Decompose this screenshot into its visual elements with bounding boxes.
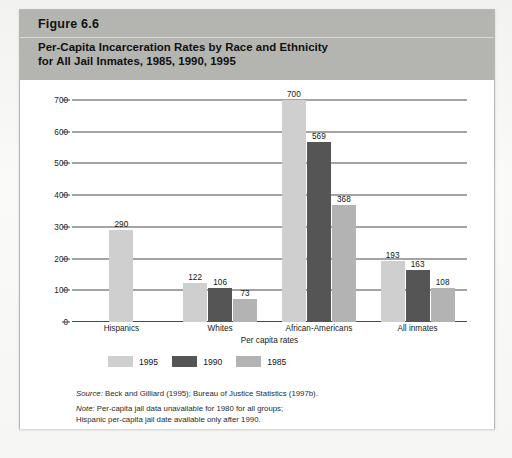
legend-swatch	[108, 356, 133, 367]
source-label: Source:	[76, 389, 103, 398]
y-axis-tick-mark	[62, 290, 70, 291]
bar[interactable]: 290	[109, 100, 133, 322]
bar-rect	[109, 230, 133, 322]
category-label: Hispanics	[72, 324, 171, 333]
bar-value-label: 193	[386, 251, 400, 260]
y-axis-tick-mark	[62, 258, 70, 259]
bar-group: 700569368	[270, 100, 369, 322]
bar-group: 290	[72, 100, 171, 322]
y-axis-tick-mark	[62, 195, 70, 196]
legend-label: 1985	[267, 357, 286, 367]
note-text: Per-capita jail data unavailable for 198…	[95, 404, 284, 413]
bar-groups: 29012210673700569368193163108	[72, 100, 467, 322]
bar-rect	[381, 261, 405, 322]
bar-value-label: 368	[337, 195, 351, 204]
legend-item[interactable]: 1990	[172, 356, 222, 367]
y-axis: 0100200300400500600700	[32, 100, 68, 322]
bar-value-label: 122	[188, 273, 202, 282]
bar[interactable]: 163	[406, 100, 430, 322]
legend-swatch	[172, 356, 197, 367]
chart-legend: 199519901985	[108, 356, 286, 367]
y-axis-tick-mark	[62, 322, 70, 323]
bar-value-label: 700	[287, 90, 301, 99]
bar-rect	[183, 283, 207, 322]
figure-notes: Source: Beck and Gilliard (1995); Bureau…	[76, 388, 456, 426]
figure-title-line-2: for All Jail Inmates, 1985, 1990, 1995	[38, 55, 494, 69]
y-axis-tick-mark	[62, 163, 70, 164]
bar-group: 12210673	[171, 100, 270, 322]
source-note: Source: Beck and Gilliard (1995); Bureau…	[76, 388, 456, 400]
bar-value-label: 106	[213, 278, 227, 287]
note-line-2: Hispanic per-capita jail date available …	[76, 414, 456, 426]
bar-value-label: 108	[436, 278, 450, 287]
bar-rect	[307, 142, 331, 322]
bar-rect	[233, 299, 257, 322]
category-label: Whites	[171, 324, 270, 333]
bar-rect	[431, 288, 455, 322]
note-line-1: Note: Per-capita jail data unavailable f…	[76, 403, 456, 415]
figure-body: 0100200300400500600700 29012210673700569…	[20, 80, 494, 429]
figure-header: Figure 6.6 Per-Capita Incarceration Rate…	[20, 10, 494, 80]
bar-value-label: 569	[312, 132, 326, 141]
bar-value-label: 73	[241, 289, 250, 298]
y-axis-tick-mark	[62, 131, 70, 132]
bar[interactable]: 368	[332, 100, 356, 322]
bar[interactable]: 700	[282, 100, 306, 322]
legend-item[interactable]: 1985	[236, 356, 286, 367]
bar-value-label: 290	[115, 220, 129, 229]
category-label: All inmates	[368, 324, 467, 333]
bar[interactable]: 106	[208, 100, 232, 322]
header-divider	[20, 37, 494, 38]
legend-item[interactable]: 1995	[108, 356, 158, 367]
figure-number: Figure 6.6	[38, 17, 494, 31]
bar[interactable]: 569	[307, 100, 331, 322]
bar-group: 193163108	[368, 100, 467, 322]
bar-rect	[332, 205, 356, 322]
note-label: Note:	[76, 404, 95, 413]
bar-value-label: 163	[411, 260, 425, 269]
legend-label: 1990	[203, 357, 222, 367]
category-labels: HispanicsWhitesAfrican-AmericansAll inma…	[72, 324, 467, 333]
figure-title: Per-Capita Incarceration Rates by Race a…	[38, 41, 494, 68]
figure-container: Figure 6.6 Per-Capita Incarceration Rate…	[19, 9, 495, 429]
source-text: Beck and Gilliard (1995); Bureau of Just…	[103, 389, 318, 398]
plot-area: 0100200300400500600700 29012210673700569…	[72, 100, 467, 322]
bar-rect	[282, 100, 306, 322]
x-axis-title: Per capita rates	[72, 336, 467, 345]
category-label: African-Americans	[270, 324, 369, 333]
bar[interactable]: 122	[183, 100, 207, 322]
y-axis-tick-mark	[62, 100, 70, 101]
figure-title-line-1: Per-Capita Incarceration Rates by Race a…	[38, 41, 494, 55]
bar[interactable]: 73	[233, 100, 257, 322]
y-axis-tick-mark	[62, 226, 70, 227]
bar[interactable]: 193	[381, 100, 405, 322]
bar-rect	[406, 270, 430, 322]
bar-rect	[208, 288, 232, 322]
legend-label: 1995	[139, 357, 158, 367]
legend-swatch	[236, 356, 261, 367]
bar[interactable]: 108	[431, 100, 455, 322]
